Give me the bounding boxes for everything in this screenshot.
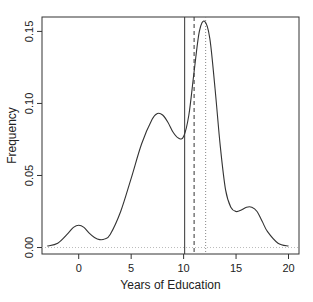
density-chart: 05101520 0.000.050.100.15 Years of Educa…: [0, 0, 313, 302]
x-axis: 05101520: [76, 254, 295, 274]
y-tick-label: 0.10: [23, 93, 35, 114]
y-tick-label: 0.15: [23, 21, 35, 42]
y-tick-label: 0.00: [23, 237, 35, 258]
x-tick-label: 0: [76, 262, 82, 274]
x-tick-label: 5: [128, 262, 134, 274]
density-curve: [47, 21, 288, 246]
y-tick-label: 0.05: [23, 165, 35, 186]
x-tick-label: 10: [177, 262, 189, 274]
x-tick-label: 15: [230, 262, 242, 274]
x-axis-title: Years of Education: [120, 278, 220, 292]
y-axis: 0.000.050.100.15: [23, 21, 42, 259]
x-tick-label: 20: [282, 262, 294, 274]
y-axis-title: Frequency: [5, 107, 19, 164]
